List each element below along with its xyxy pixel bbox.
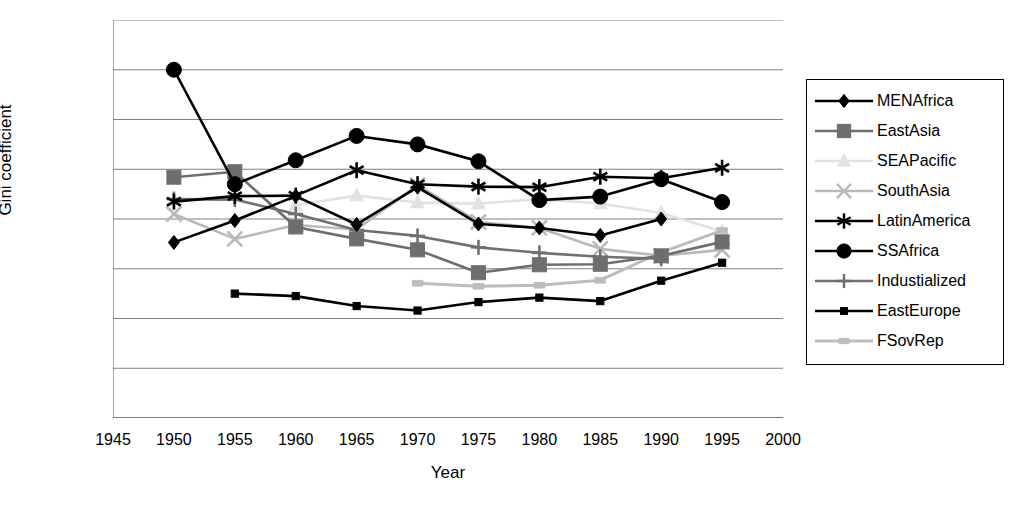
x-tick-1990: 1990 — [643, 432, 679, 448]
legend-item-latinamerica[interactable]: LatinAmerica — [807, 206, 1003, 236]
legend-marker-x-icon — [813, 178, 875, 204]
x-tick-1995: 1995 — [704, 432, 740, 448]
legend-marker-smallsquare-icon — [813, 298, 875, 324]
x-tick-1945: 1945 — [95, 432, 131, 448]
legend-label: MENAfrica — [877, 93, 953, 109]
x-tick-1960: 1960 — [278, 432, 314, 448]
series-fsovrep — [412, 227, 728, 289]
legend-item-southasia[interactable]: SouthAsia — [807, 176, 1003, 206]
legend-label: FSovRep — [877, 333, 944, 349]
legend-marker-asterisk-icon — [813, 208, 875, 234]
chart-page: Gini coefficient 01020304050607080 19451… — [0, 0, 1014, 505]
legend-item-menafrica[interactable]: MENAfrica — [807, 86, 1003, 116]
legend-marker-square-icon — [813, 118, 875, 144]
x-tick-2000: 2000 — [765, 432, 801, 448]
chart-legend: MENAfricaEastAsiaSEAPacificSouthAsiaLati… — [806, 79, 1004, 365]
plot-svg — [113, 20, 783, 418]
y-axis-title: Gini coefficient — [0, 70, 16, 250]
x-tick-1980: 1980 — [522, 432, 558, 448]
x-tick-1965: 1965 — [339, 432, 375, 448]
legend-marker-plus-icon — [813, 268, 875, 294]
legend-label: EastAsia — [877, 123, 940, 139]
line-chart: Gini coefficient 01020304050607080 19451… — [0, 0, 800, 505]
x-tick-1975: 1975 — [461, 432, 497, 448]
x-axis-title: Year — [113, 463, 783, 483]
series-southasia — [166, 178, 729, 264]
legend-label: LatinAmerica — [877, 213, 970, 229]
legend-label: SSAfrica — [877, 243, 939, 259]
legend-item-eastasia[interactable]: EastAsia — [807, 116, 1003, 146]
legend-marker-triangle-icon — [813, 148, 875, 174]
legend-label: SEAPacific — [877, 153, 956, 169]
legend-label: Industialized — [877, 273, 966, 289]
legend-label: EastEurope — [877, 303, 961, 319]
x-tick-1970: 1970 — [400, 432, 436, 448]
legend-item-easteurope[interactable]: EastEurope — [807, 296, 1003, 326]
x-tick-1955: 1955 — [217, 432, 253, 448]
plot-area — [113, 20, 783, 418]
legend-label: SouthAsia — [877, 183, 950, 199]
legend-item-fsovrep[interactable]: FSovRep — [807, 326, 1003, 356]
x-tick-1950: 1950 — [156, 432, 192, 448]
legend-item-industialized[interactable]: Industialized — [807, 266, 1003, 296]
legend-item-seapacific[interactable]: SEAPacific — [807, 146, 1003, 176]
legend-marker-dotted-icon — [813, 328, 875, 354]
legend-marker-circle-icon — [813, 238, 875, 264]
legend-marker-diamond-icon — [813, 88, 875, 114]
legend-item-ssafrica[interactable]: SSAfrica — [807, 236, 1003, 266]
x-tick-1985: 1985 — [582, 432, 618, 448]
